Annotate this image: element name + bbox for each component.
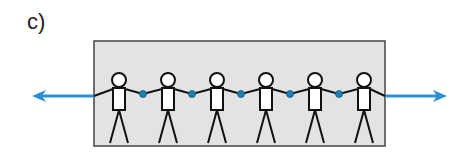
figure-body — [358, 88, 370, 110]
hand-dot — [238, 91, 245, 98]
figure-head — [308, 73, 322, 87]
hand-dot — [336, 91, 343, 98]
figure-head — [161, 73, 175, 87]
figure-head — [259, 73, 273, 87]
figure-body — [113, 88, 125, 110]
hand-dot — [189, 91, 196, 98]
tension-diagram — [0, 0, 475, 159]
figure-body — [162, 88, 174, 110]
hand-dot — [140, 91, 147, 98]
figure-head — [357, 73, 371, 87]
figure-body — [260, 88, 272, 110]
hand-dot — [287, 91, 294, 98]
figure-body — [309, 88, 321, 110]
figure-head — [210, 73, 224, 87]
figure-head — [112, 73, 126, 87]
figure-body — [211, 88, 223, 110]
